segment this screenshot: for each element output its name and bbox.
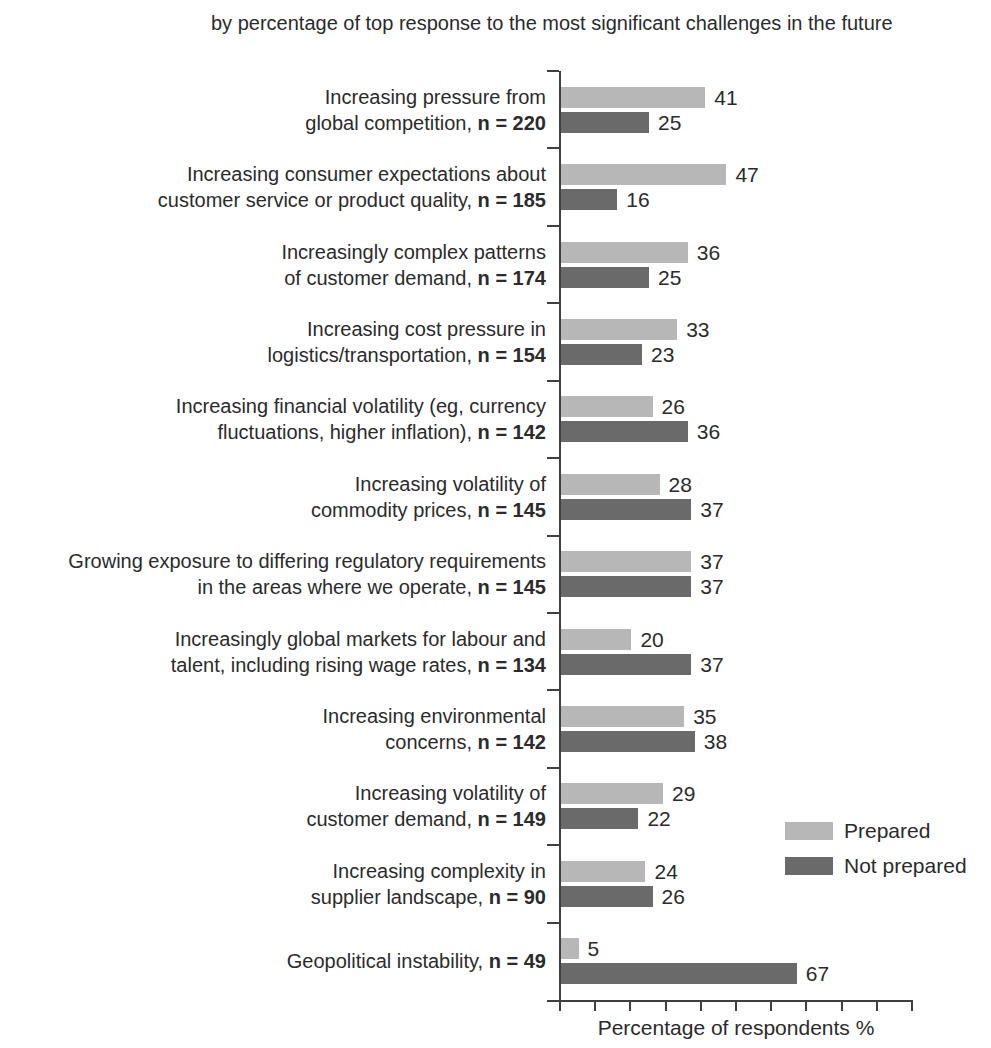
x-tick (911, 1000, 913, 1011)
bar-prepared (561, 242, 688, 263)
category-label: Increasing environmentalconcerns, n = 14… (0, 690, 546, 767)
category-n-value: n = 142 (478, 421, 546, 443)
category-label-line: customer demand, n = 149 (0, 806, 546, 832)
category-label-line: customer service or product quality, n =… (0, 187, 546, 213)
value-label-not-prepared: 67 (806, 963, 829, 984)
category-n-value: n = 145 (478, 499, 546, 521)
category-label-line: Increasing environmental (0, 703, 546, 729)
bar-prepared (561, 551, 691, 572)
bar-prepared (561, 783, 663, 804)
legend-item-not-prepared: Not prepared (785, 857, 967, 875)
category-label-line: Increasing complexity in (0, 858, 546, 884)
legend-swatch-not-prepared (785, 857, 833, 875)
bar-prepared (561, 938, 579, 959)
category-label-line: Growing exposure to differing regulatory… (0, 548, 546, 574)
category-label-line: commodity prices, n = 145 (0, 497, 546, 523)
category-label-line: supplier landscape, n = 90 (0, 884, 546, 910)
category-label-line: Increasing pressure from (0, 84, 546, 110)
category-row: Increasing cost pressure inlogistics/tra… (0, 303, 991, 380)
value-label-not-prepared: 26 (662, 886, 685, 907)
x-tick (594, 1000, 596, 1011)
category-n-value: n = 174 (478, 267, 546, 289)
x-axis-label: Percentage of respondents % (559, 1016, 913, 1040)
bar-prepared (561, 396, 653, 417)
bar-prepared (561, 319, 677, 340)
category-label-line: Increasingly global markets for labour a… (0, 626, 546, 652)
value-label-not-prepared: 37 (700, 499, 723, 520)
value-label-not-prepared: 37 (700, 654, 723, 675)
value-label-not-prepared: 38 (704, 731, 727, 752)
x-tick (700, 1000, 702, 1011)
category-label: Increasingly complex patternsof customer… (0, 226, 546, 303)
category-n-value: n = 49 (489, 950, 546, 972)
value-label-not-prepared: 25 (658, 112, 681, 133)
x-tick (770, 1000, 772, 1011)
legend-label-not-prepared: Not prepared (844, 857, 967, 875)
bar-not-prepared (561, 654, 691, 675)
value-label-not-prepared: 23 (651, 344, 674, 365)
category-label-line: of customer demand, n = 174 (0, 265, 546, 291)
category-label-line: Increasing cost pressure in (0, 316, 546, 342)
category-label: Increasingly global markets for labour a… (0, 613, 546, 690)
value-label-not-prepared: 22 (647, 808, 670, 829)
chart-subtitle: by percentage of top response to the mos… (211, 11, 893, 35)
bar-not-prepared (561, 963, 797, 984)
x-tick (665, 1000, 667, 1011)
category-row: Geopolitical instability, n = 49567 (0, 923, 991, 1000)
bar-not-prepared (561, 112, 649, 133)
value-label-prepared: 33 (686, 319, 709, 340)
category-n-value: n = 142 (478, 731, 546, 753)
category-label-line: concerns, n = 142 (0, 729, 546, 755)
category-n-value: n = 134 (478, 654, 546, 676)
category-n-value: n = 145 (478, 576, 546, 598)
category-row: Increasingly complex patternsof customer… (0, 226, 991, 303)
x-tick (876, 1000, 878, 1011)
bar-prepared (561, 629, 631, 650)
legend-label-prepared: Prepared (844, 822, 930, 840)
category-label-line: global competition, n = 220 (0, 110, 546, 136)
category-label: Increasing volatility ofcommodity prices… (0, 458, 546, 535)
value-label-prepared: 37 (700, 551, 723, 572)
value-label-prepared: 41 (714, 87, 737, 108)
value-label-prepared: 20 (640, 629, 663, 650)
category-label-line: fluctuations, higher inflation), n = 142 (0, 419, 546, 445)
category-label-line: Increasing financial volatility (eg, cur… (0, 393, 546, 419)
value-label-not-prepared: 37 (700, 576, 723, 597)
x-tick (559, 1000, 561, 1011)
category-label: Increasing complexity insupplier landsca… (0, 845, 546, 922)
bar-not-prepared (561, 344, 642, 365)
category-label-line: Increasingly complex patterns (0, 239, 546, 265)
legend-swatch-prepared (785, 822, 833, 840)
bar-not-prepared (561, 421, 688, 442)
x-tick (629, 1000, 631, 1011)
category-label: Growing exposure to differing regulatory… (0, 536, 546, 613)
value-label-prepared: 29 (672, 783, 695, 804)
category-n-value: n = 154 (478, 344, 546, 366)
category-label: Increasing consumer expectations aboutcu… (0, 148, 546, 225)
value-label-not-prepared: 16 (626, 189, 649, 210)
category-n-value: n = 185 (478, 189, 546, 211)
category-row: Growing exposure to differing regulatory… (0, 536, 991, 613)
value-label-not-prepared: 25 (658, 267, 681, 288)
category-label: Increasing financial volatility (eg, cur… (0, 381, 546, 458)
value-label-prepared: 47 (735, 164, 758, 185)
bar-not-prepared (561, 499, 691, 520)
legend-item-prepared: Prepared (785, 822, 967, 840)
x-tick (841, 1000, 843, 1011)
legend: Prepared Not prepared (785, 822, 967, 892)
bar-not-prepared (561, 267, 649, 288)
bar-prepared (561, 706, 684, 727)
value-label-prepared: 36 (697, 242, 720, 263)
bar-not-prepared (561, 189, 617, 210)
bar-prepared (561, 87, 705, 108)
category-label: Geopolitical instability, n = 49 (0, 923, 546, 1000)
category-row: Increasing financial volatility (eg, cur… (0, 381, 991, 458)
category-label-line: in the areas where we operate, n = 145 (0, 574, 546, 600)
value-label-prepared: 28 (669, 474, 692, 495)
value-label-prepared: 24 (654, 861, 677, 882)
category-n-value: n = 149 (478, 808, 546, 830)
category-label: Increasing volatility ofcustomer demand,… (0, 768, 546, 845)
value-label-not-prepared: 36 (697, 421, 720, 442)
category-label-line: talent, including rising wage rates, n =… (0, 652, 546, 678)
category-row: Increasing environmentalconcerns, n = 14… (0, 690, 991, 767)
